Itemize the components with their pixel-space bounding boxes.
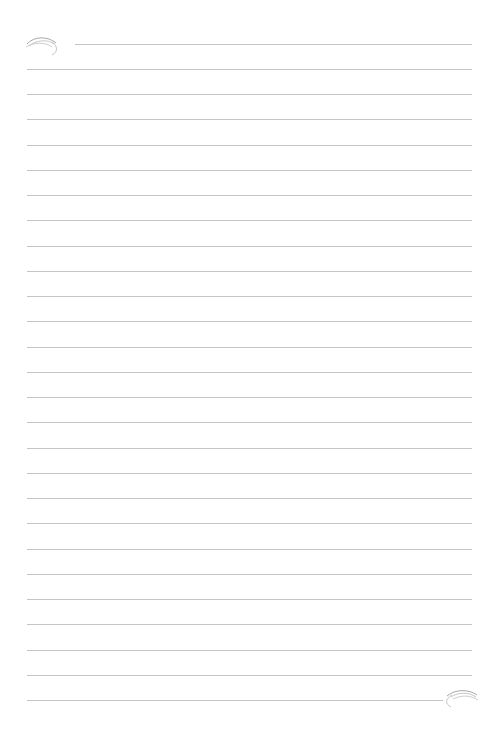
ruled-line: [27, 271, 472, 272]
ruled-line: [27, 195, 472, 196]
ruled-line: [27, 220, 472, 221]
flourish-bottom-right-icon: [443, 686, 481, 710]
ruled-line: [27, 94, 472, 95]
ruled-line: [75, 44, 472, 45]
ruled-line: [27, 624, 472, 625]
ruled-line: [27, 69, 472, 70]
ruled-line: [27, 397, 472, 398]
ruled-line: [27, 599, 472, 600]
ruled-line: [27, 170, 472, 171]
ruled-line: [27, 650, 472, 651]
ruled-line: [27, 549, 472, 550]
lined-paper-page: [0, 0, 495, 739]
ruled-line: [27, 675, 472, 676]
ruled-line: [27, 700, 443, 701]
ruled-line: [27, 448, 472, 449]
ruled-line: [27, 473, 472, 474]
ruled-line: [27, 372, 472, 373]
ruled-line: [27, 523, 472, 524]
ruled-line: [27, 145, 472, 146]
flourish-top-left-icon: [24, 34, 60, 58]
ruled-line: [27, 422, 472, 423]
ruled-line: [27, 246, 472, 247]
ruled-line: [27, 574, 472, 575]
ruled-line: [27, 498, 472, 499]
ruled-line: [27, 347, 472, 348]
ruled-line: [27, 119, 472, 120]
ruled-line: [27, 321, 472, 322]
ruled-line: [27, 296, 472, 297]
